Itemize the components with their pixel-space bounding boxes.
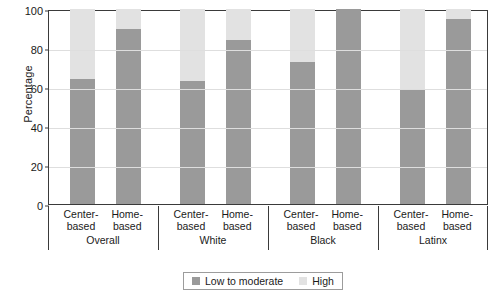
x-axis-label-band: Center-basedHome-basedCenter-basedHome-b… [48,206,488,258]
y-axis-tick-mark [45,89,49,90]
x-sub-label-line1: Home- [221,208,253,220]
chart-legend: Low to moderate High [183,272,343,290]
gridline [49,50,487,51]
x-sub-label-line1: Center- [173,208,208,220]
legend-label-low-to-moderate: Low to moderate [205,275,283,287]
y-axis-tick-mark [45,128,49,129]
x-axis-group-label-white: White [158,234,268,246]
bars-layer [49,11,487,204]
x-sub-label-line2: based [443,220,472,232]
x-axis-sub-label: Home-based [317,209,377,232]
x-sub-label-line1: Home- [441,208,473,220]
bar-black-center-based [290,9,315,204]
bar-white-center-based [180,9,205,204]
gridline [49,128,487,129]
bar-white-home-based [226,9,251,204]
bar-latinx-center-based [400,9,425,204]
bar-segment-high [400,9,425,89]
bar-segment-high [290,9,315,62]
x-axis-sub-label: Home-based [427,209,487,232]
bar-segment-high [70,9,95,79]
x-sub-label-line1: Center- [283,208,318,220]
x-sub-label-line2: based [67,220,96,232]
y-axis-tick-mark [45,11,49,12]
x-axis-sub-label: Home-based [97,209,157,232]
bar-segment-low-to-moderate [180,81,205,204]
legend-item-high: High [299,275,334,287]
bar-segment-low-to-moderate [70,79,95,204]
x-sub-label-line2: based [287,220,316,232]
x-sub-label-line1: Home- [331,208,363,220]
legend-swatch-low-to-moderate [192,277,200,285]
plot-area: 020406080100 [48,10,488,205]
legend-item-low-to-moderate: Low to moderate [192,275,283,287]
bar-segment-high [180,9,205,81]
x-sub-label-line2: based [113,220,142,232]
x-sub-label-line2: based [397,220,426,232]
bar-segment-low-to-moderate [116,29,141,205]
bar-segment-high [116,9,141,29]
bar-overall-home-based [116,9,141,204]
x-sub-label-line2: based [333,220,362,232]
legend-swatch-high [299,277,307,285]
x-axis-group-label-latinx: Latinx [378,234,488,246]
y-axis-tick-mark [45,50,49,51]
y-axis-tick-mark [45,167,49,168]
bar-segment-low-to-moderate [446,19,471,204]
x-axis-group-label-black: Black [268,234,378,246]
x-sub-label-line2: based [223,220,252,232]
x-sub-label-line1: Center- [393,208,428,220]
bar-segment-low-to-moderate [336,9,361,204]
x-axis-group-label-overall: Overall [48,234,158,246]
bar-overall-center-based [70,9,95,204]
x-sub-label-line1: Center- [63,208,98,220]
bar-segment-low-to-moderate [400,89,425,204]
bar-segment-low-to-moderate [290,62,315,204]
bar-segment-high [446,9,471,19]
bar-segment-low-to-moderate [226,40,251,204]
x-sub-label-line2: based [177,220,206,232]
legend-label-high: High [312,275,334,287]
bar-black-home-based [336,9,361,204]
bar-segment-high [226,9,251,40]
x-axis-sub-label: Home-based [207,209,267,232]
stacked-bar-chart-figure: Percentage 020406080100 Center-basedHome… [0,0,498,303]
x-sub-label-line1: Home- [111,208,143,220]
bar-latinx-home-based [446,9,471,204]
gridline [49,167,487,168]
gridline [49,89,487,90]
